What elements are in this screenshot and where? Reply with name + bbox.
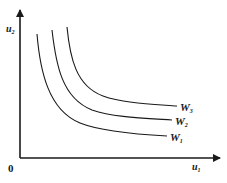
curve-w2 bbox=[52, 30, 172, 120]
x-axis-label: u1 bbox=[192, 161, 201, 173]
y-axis-label: u2 bbox=[6, 23, 15, 35]
curve-label-w3: W3 bbox=[180, 101, 193, 114]
curve-label-w1: W1 bbox=[170, 131, 183, 144]
curve-w1 bbox=[37, 34, 167, 136]
indifference-curve-diagram: u2 u1 0 W3 W2 W1 bbox=[0, 0, 227, 183]
curve-w3 bbox=[67, 27, 177, 106]
diagram-canvas: u2 u1 0 W3 W2 W1 bbox=[0, 0, 227, 183]
origin-label: 0 bbox=[8, 162, 14, 174]
curve-label-w2: W2 bbox=[175, 115, 188, 128]
